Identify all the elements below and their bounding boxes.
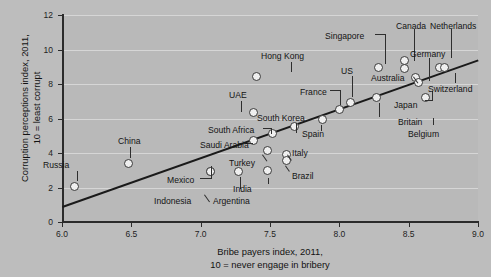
y-tick-label: 0: [29, 217, 53, 227]
data-point-label: Britain: [398, 117, 422, 127]
data-point-label: Australia: [371, 73, 404, 83]
data-point-label: Canada: [396, 21, 426, 31]
data-point-marker[interactable]: [263, 146, 272, 155]
data-point-label: Singapore: [325, 31, 364, 41]
y-axis-label-line2: 10 = least corrupt: [31, 72, 42, 145]
data-point-marker[interactable]: [124, 159, 133, 168]
x-axis-label-line2: 10 = never engage in bribery: [210, 259, 330, 270]
label-leader-line: [330, 90, 340, 91]
data-point-label: Russia: [43, 160, 69, 170]
label-leader-line: [271, 128, 272, 134]
label-leader-line: [455, 73, 456, 83]
x-tick: [409, 223, 410, 227]
data-point-marker[interactable]: [252, 72, 261, 81]
label-leader-line: [379, 103, 380, 117]
data-point-label: Argentina: [213, 196, 250, 206]
data-point-label: Brazil: [292, 171, 314, 181]
x-tick: [131, 223, 132, 227]
data-point-label: France: [300, 87, 327, 97]
x-tick: [62, 223, 63, 227]
data-point-label: South Africa: [208, 125, 254, 135]
label-leader-line: [340, 90, 341, 105]
y-tick: [58, 15, 62, 16]
y-axis-label: Corruption perceptions index, 2011, 10 =…: [19, 3, 43, 213]
label-leader-line: [429, 58, 430, 81]
label-leader-line: [200, 178, 212, 179]
data-point-label: UAE: [229, 90, 247, 100]
gridline: [62, 15, 478, 16]
data-point-label: Spain: [302, 129, 324, 139]
x-tick-label: 7.5: [255, 229, 285, 239]
x-tick-label: 6.0: [47, 229, 77, 239]
data-point-label: Switzerland: [428, 84, 472, 94]
label-leader-line: [211, 166, 212, 178]
label-leader-line: [425, 100, 433, 101]
data-point-label: India: [233, 184, 252, 194]
x-tick: [270, 223, 271, 227]
data-point-label: Mexico: [167, 175, 194, 185]
data-point-marker[interactable]: [374, 63, 383, 72]
x-tick-label: 7.0: [186, 229, 216, 239]
label-leader-line: [241, 101, 242, 112]
y-axis-line: [62, 14, 64, 223]
y-tick: [58, 119, 62, 120]
data-point-marker[interactable]: [318, 115, 327, 124]
gridline: [62, 188, 478, 189]
x-tick-label: 8.0: [324, 229, 354, 239]
x-tick: [339, 223, 340, 227]
data-point-marker[interactable]: [263, 166, 272, 175]
label-leader-line: [385, 34, 386, 64]
label-leader-line: [291, 62, 292, 72]
data-point-label: South Korea: [257, 113, 305, 123]
x-axis-label: Bribe payers index, 2011, 10 = never eng…: [62, 246, 478, 271]
y-tick: [58, 84, 62, 85]
label-leader-line: [352, 76, 353, 97]
x-tick-label: 9.0: [463, 229, 491, 239]
label-leader-line: [77, 171, 78, 181]
y-tick: [58, 188, 62, 189]
x-tick-label: 8.5: [394, 229, 424, 239]
data-point-label: Turkey: [229, 158, 255, 168]
label-leader-line: [296, 123, 297, 133]
label-leader-line: [130, 147, 131, 158]
x-axis-label-line1: Bribe payers index, 2011,: [217, 246, 323, 257]
y-axis-label-line1: Corruption perceptions index, 2011,: [19, 34, 30, 182]
data-point-label: Japan: [394, 100, 417, 110]
label-leader-line: [451, 29, 452, 58]
data-point-label: Germany: [410, 49, 445, 59]
data-point-label: Netherlands: [430, 21, 476, 31]
y-tick: [58, 50, 62, 51]
data-point-label: Italy: [292, 148, 308, 158]
data-point-label: Belgium: [408, 129, 439, 139]
label-leader-line: [433, 118, 434, 125]
x-tick: [201, 223, 202, 227]
data-point-label: US: [341, 66, 353, 76]
data-point-label: Hong Kong: [261, 51, 304, 61]
x-tick: [478, 223, 479, 227]
label-leader-line: [268, 178, 269, 184]
y-tick: [58, 153, 62, 154]
scatter-chart: 024681012 6.06.57.07.58.08.59.0 RussiaCh…: [0, 0, 491, 277]
data-point-label: Saudi Arabia: [200, 140, 249, 150]
x-tick-label: 6.5: [116, 229, 146, 239]
data-point-label: Indonesia: [154, 196, 191, 206]
label-leader-line: [375, 34, 385, 35]
data-point-label: China: [118, 136, 140, 146]
